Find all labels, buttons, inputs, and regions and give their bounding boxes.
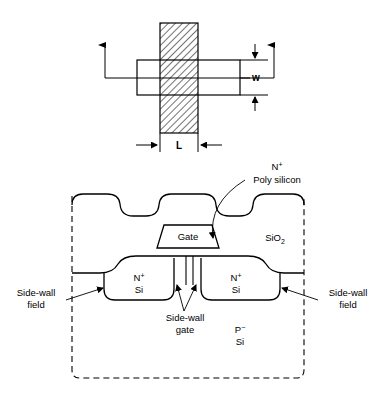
substrate-label: Si [236,336,244,347]
sidewall-gate-label-line1: Side-wall [166,312,205,323]
drain-region-superscript: N+ [231,272,242,283]
cross-section-group: Gate N+ Poly silicon SiO2 N+ Si N+ Si [17,161,368,378]
sidewall-gate-leader-left [177,285,184,311]
poly-silicon-leader [212,180,245,238]
sidewall-field-right-leader [282,288,318,300]
diagram-canvas: w L [0,0,384,397]
sidewall-field-left-label-line2: field [27,299,44,310]
oxide-top-surface [72,194,304,216]
source-region-label: Si [135,284,143,295]
drain-region-label: Si [232,284,240,295]
sidewall-field-right-label-line2: field [339,299,356,310]
dimension-l-label: L [176,140,182,151]
silicon-surface-profile [72,256,304,273]
sidewall-field-right-label-line1: Side-wall [329,287,368,298]
sidewall-gate-leader-right [184,285,196,311]
drain-junction-outline [201,258,280,300]
poly-silicon-label: Poly silicon [253,174,301,185]
poly-silicon-superscript: N+ [272,161,283,172]
gate-label: Gate [178,231,199,242]
sidewall-field-left-label-line1: Side-wall [17,287,56,298]
dimension-l: L [136,133,222,152]
oxide-label: SiO2 [265,232,285,245]
sidewall-gate-label-line2: gate [176,324,195,335]
source-region-superscript: N+ [134,272,145,283]
substrate-superscript: P− [235,324,245,335]
substrate-boundary-dashed [72,196,304,378]
figure-root: w L [0,0,384,397]
dimension-w-label: w [251,72,260,83]
plan-view-group: w L [105,23,274,152]
